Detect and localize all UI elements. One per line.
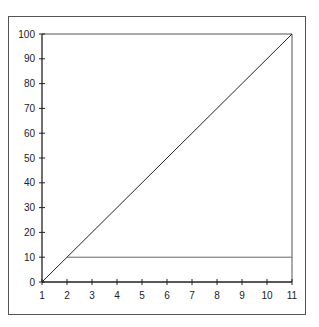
y-tick-label: 70 [24,103,36,114]
series-diagonal [42,34,292,282]
y-tick-label: 50 [24,153,36,164]
y-tick-label: 40 [24,177,36,188]
y-tick-label: 30 [24,202,36,213]
y-tick-label: 20 [24,227,36,238]
x-tick-label: 2 [64,290,70,301]
x-tick-label: 1 [39,290,45,301]
y-tick-label: 80 [24,78,36,89]
x-tick-label: 4 [114,290,120,301]
x-axis: 1234567891011 [39,279,297,301]
series-lines [42,34,292,282]
x-tick-label: 8 [214,290,220,301]
y-tick-label: 10 [24,252,36,263]
x-tick-label: 5 [139,290,145,301]
x-tick-label: 10 [261,290,273,301]
y-axis: 0102030405060708090100 [18,29,45,288]
y-tick-label: 0 [29,277,35,288]
x-tick-label: 3 [89,290,95,301]
x-tick-label: 9 [239,290,245,301]
x-tick-label: 6 [164,290,170,301]
y-tick-label: 60 [24,128,36,139]
y-tick-label: 100 [18,29,35,40]
line-chart: 0102030405060708090100 1234567891011 [0,0,319,327]
x-tick-label: 11 [287,290,298,301]
x-tick-label: 7 [189,290,195,301]
y-tick-label: 90 [24,53,36,64]
